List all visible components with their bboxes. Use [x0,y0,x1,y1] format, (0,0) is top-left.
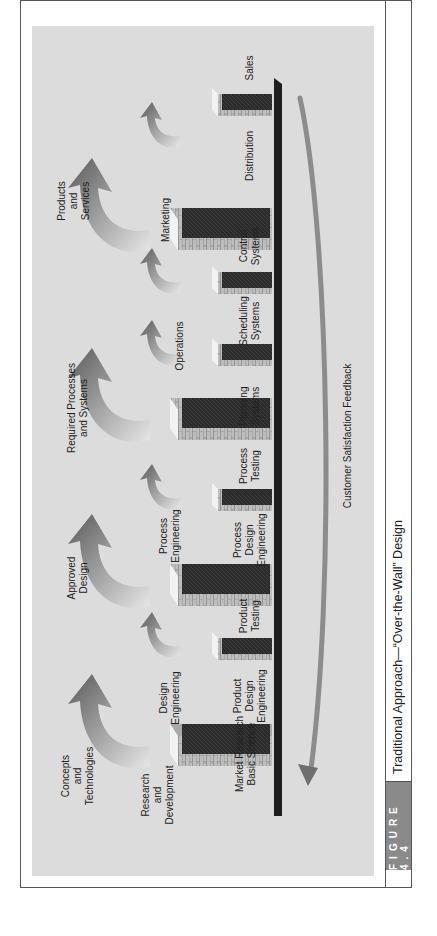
stage-label-sales: Sales [244,55,256,80]
baseline-bar [274,78,282,816]
small-arrow-operations-2 [140,248,180,293]
small-arrow-process-engineering [140,464,180,509]
stage-label-research-development: Research and Development [140,766,176,825]
feedback-label: Customer Satisfaction Feedback [342,364,354,509]
figure-caption: Traditional Approach—“Over-the-Wall” Des… [388,520,408,774]
stage-label-product-design-engineering: Product Design Engineering [232,669,268,722]
stage-label-distribution: Distribution [244,131,256,181]
stage-label-planning-systems: Planning Systems [238,387,262,426]
small-arrow-design-engineering [140,612,180,657]
stage-label-marketing: Marketing [160,198,172,242]
stage-label-design-engineering: Design Engineering [158,671,182,724]
wall-product-design-engineering [212,632,272,660]
small-arrow-distribution [140,102,180,147]
stage-label-product-testing: Product Testing [238,599,262,633]
caption-divider [386,781,411,782]
figure-number-tab: FIGURE 4.4 [386,782,411,870]
stage-label-process-design-engineering: Process Design Engineering [232,513,268,566]
handoff-label-required-processes: Required Processes and Systems [66,363,90,453]
handoff-label-products-services: Products and Services [56,181,92,220]
handoff-label-concepts-technologies: Concepts and Technologies [60,747,96,805]
handoff-label-approved-design: Approved Design [66,557,90,600]
stage-label-scheduling-systems: Scheduling Systems [238,296,262,345]
stage-label-process-engineering: Process Engineering [158,509,182,562]
stage-label-operations: Operations [174,322,186,371]
figure-stage: Market Research Basic Science Research a… [0,0,437,936]
stage-label-process-testing: Process Testing [238,448,262,484]
stage-label-market-research: Market Research Basic Science [234,716,258,792]
stage-label-control-systems: Control Systems [238,227,262,265]
wall-sales [212,88,272,116]
wall-process-design-engineering [212,483,272,511]
feedback-arrow [298,98,326,786]
wall-control-systems [212,266,272,294]
